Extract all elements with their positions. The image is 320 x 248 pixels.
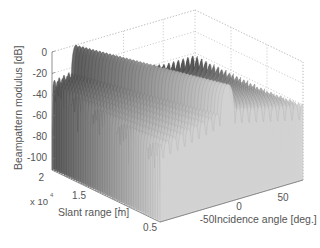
surface-mesh [52,45,303,222]
x-tick-0: -50 [200,214,215,225]
y-tick-1: 1.5 [72,190,86,201]
z-tick-labels: 0 -20 -40 -60 -80 -100 [27,47,47,163]
z-tick-2: -40 [33,89,48,100]
y-tick-0: 2 [38,172,44,183]
y-exponent-power: 4 [50,192,54,198]
x-tick-2: 50 [277,192,289,203]
x-tick-1: 0 [236,201,242,212]
z-tick-5: -100 [27,152,47,163]
y-exponent-label: x 10 [30,196,48,207]
z-tick-1: -20 [33,68,48,79]
z-tick-0: 0 [41,47,47,58]
z-tick-4: -80 [33,131,48,142]
x-axis-label: Incidence angle [deg.] [214,213,317,225]
y-axis-label: Slant range [m] [58,206,129,218]
z-tick-3: -60 [33,110,48,121]
y-tick-3: 0.5 [143,222,157,233]
z-axis-label: Beampattern modulus [dB] [12,46,24,170]
beampattern-3d-surface-plot: 0 -20 -40 -60 -80 -100 2 1.5 1 0.5 -50 0… [0,0,320,248]
